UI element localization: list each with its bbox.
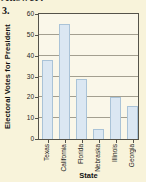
x-tick-label-florida: Florida	[77, 144, 85, 164]
cutoff-answer-text: Answer:	[1, 0, 44, 3]
x-tick-mark-california	[65, 140, 66, 143]
bar-illinois	[110, 97, 121, 139]
textbook-page: Answer: 3. Electoral Votes for President…	[0, 0, 146, 182]
x-tick-mark-illinois	[116, 140, 117, 143]
y-tick-label-20: 20	[14, 93, 34, 101]
y-tick-mark-50	[35, 35, 38, 36]
x-axis-title: State	[38, 171, 139, 180]
x-tick-label-georgia: Georgia	[128, 144, 136, 167]
y-tick-mark-30	[35, 77, 38, 78]
y-axis-title: Electoral Votes for President	[3, 13, 13, 140]
y-tick-mark-40	[35, 56, 38, 57]
y-tick-mark-60	[35, 14, 38, 15]
x-tick-mark-texas	[48, 140, 49, 143]
bar-california	[59, 24, 70, 139]
x-tick-mark-georgia	[133, 140, 134, 143]
y-tick-mark-10	[35, 118, 38, 119]
bar-texas	[42, 60, 53, 139]
y-tick-label-30: 30	[14, 73, 34, 81]
y-tick-label-50: 50	[14, 31, 34, 39]
gridline-y10	[39, 117, 138, 118]
bar-georgia	[127, 106, 138, 139]
y-tick-label-60: 60	[14, 10, 34, 18]
y-tick-mark-0	[35, 139, 38, 140]
x-tick-mark-florida	[82, 140, 83, 143]
gridline-y30	[39, 76, 138, 77]
gridline-y50	[39, 34, 138, 35]
x-tick-label-california: California	[60, 144, 68, 171]
x-tick-label-nebraska: Nebraska	[94, 144, 102, 172]
gridline-y20	[39, 96, 138, 97]
y-tick-label-40: 40	[14, 52, 34, 60]
plot-area	[38, 13, 139, 140]
x-tick-label-texas: Texas	[43, 144, 51, 161]
bar-florida	[76, 79, 87, 139]
y-tick-label-0: 0	[14, 135, 34, 143]
bar-nebraska	[93, 129, 104, 139]
x-tick-label-illinois: Illinois	[111, 144, 119, 162]
gridline-y40	[39, 55, 138, 56]
x-tick-mark-nebraska	[99, 140, 100, 143]
y-tick-mark-20	[35, 97, 38, 98]
y-tick-label-10: 10	[14, 114, 34, 122]
